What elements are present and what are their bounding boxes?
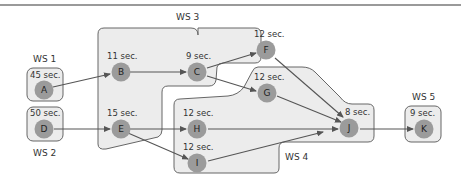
ws1-label: WS 1 xyxy=(33,54,56,64)
time-K: 9 sec. xyxy=(410,108,435,118)
ws2-label: WS 2 xyxy=(33,148,56,158)
svg-text:E: E xyxy=(118,124,124,134)
svg-text:B: B xyxy=(118,67,124,77)
svg-text:F: F xyxy=(263,45,268,55)
time-C: 9 sec. xyxy=(186,51,211,61)
time-E: 15 sec. xyxy=(107,108,138,118)
ws5-label: WS 5 xyxy=(412,92,435,102)
svg-text:I: I xyxy=(196,158,199,168)
svg-text:C: C xyxy=(194,67,200,77)
svg-text:G: G xyxy=(264,88,271,98)
node-F: F 12 sec. xyxy=(254,29,285,60)
svg-text:A: A xyxy=(41,85,48,95)
time-H: 12 sec. xyxy=(183,108,214,118)
svg-text:H: H xyxy=(194,124,201,134)
time-J: 8 sec. xyxy=(345,107,370,117)
ws4-label: WS 4 xyxy=(285,152,308,162)
svg-text:J: J xyxy=(347,123,351,133)
time-B: 11 sec. xyxy=(107,51,138,61)
time-I: 12 sec. xyxy=(183,142,214,152)
svg-text:D: D xyxy=(41,124,48,134)
time-A: 45 sec. xyxy=(30,70,61,80)
ws3-label: WS 3 xyxy=(176,12,199,22)
time-G: 12 sec. xyxy=(254,72,285,82)
time-F: 12 sec. xyxy=(254,29,285,39)
time-D: 50 sec. xyxy=(30,108,61,118)
precedence-diagram: WS 1 WS 2 WS 3 WS 4 WS 5 A 45 sec. B 11 … xyxy=(0,0,461,184)
